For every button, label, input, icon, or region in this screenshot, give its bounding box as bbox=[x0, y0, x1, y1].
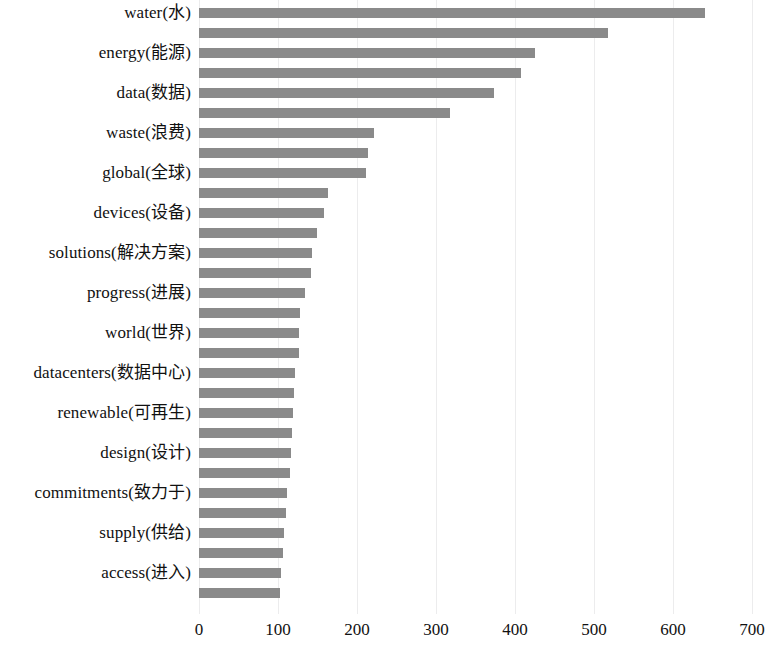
category-label: global(全球) bbox=[102, 163, 191, 183]
bar-row[interactable] bbox=[0, 263, 774, 283]
category-label: datacenters(数据中心) bbox=[34, 363, 191, 383]
bar[interactable] bbox=[199, 168, 366, 178]
bar[interactable] bbox=[199, 248, 312, 258]
category-label: access(进入) bbox=[101, 563, 191, 583]
category-label: design(设计) bbox=[100, 443, 191, 463]
bar[interactable] bbox=[199, 148, 368, 158]
bar[interactable] bbox=[199, 88, 494, 98]
bar[interactable] bbox=[199, 428, 292, 438]
category-label: energy(能源) bbox=[99, 43, 191, 63]
bar[interactable] bbox=[199, 288, 305, 298]
bar[interactable] bbox=[199, 548, 283, 558]
bar-row[interactable] bbox=[0, 23, 774, 43]
x-tick-label-700: 700 bbox=[739, 620, 765, 640]
bar-row[interactable] bbox=[0, 583, 774, 603]
category-label: world(世界) bbox=[105, 323, 191, 343]
bar-row[interactable] bbox=[0, 343, 774, 363]
bar-row[interactable] bbox=[0, 223, 774, 243]
category-label: renewable(可再生) bbox=[57, 403, 191, 423]
bar[interactable] bbox=[199, 488, 287, 498]
bar[interactable] bbox=[199, 588, 280, 598]
x-tick-label-200: 200 bbox=[344, 620, 370, 640]
bar-row[interactable] bbox=[0, 303, 774, 323]
x-tick-label-0: 0 bbox=[195, 620, 204, 640]
bar-row[interactable] bbox=[0, 3, 774, 23]
category-label: solutions(解决方案) bbox=[49, 243, 191, 263]
bar[interactable] bbox=[199, 348, 299, 358]
bar[interactable] bbox=[199, 408, 293, 418]
bar[interactable] bbox=[199, 328, 299, 338]
x-tick-label-100: 100 bbox=[265, 620, 291, 640]
bar[interactable] bbox=[199, 128, 374, 138]
bar[interactable] bbox=[199, 228, 317, 238]
bar-row[interactable] bbox=[0, 383, 774, 403]
bar-row[interactable] bbox=[0, 503, 774, 523]
bar[interactable] bbox=[199, 368, 295, 378]
category-label: progress(进展) bbox=[87, 283, 191, 303]
bar[interactable] bbox=[199, 208, 324, 218]
category-label: supply(供给) bbox=[99, 523, 191, 543]
bar[interactable] bbox=[199, 188, 328, 198]
bar-row[interactable] bbox=[0, 103, 774, 123]
bar[interactable] bbox=[199, 388, 294, 398]
bar[interactable] bbox=[199, 8, 705, 18]
category-label: water(水) bbox=[124, 3, 191, 23]
bar-chart: water(水)energy(能源)data(数据)waste(浪费)globa… bbox=[0, 0, 774, 653]
bar[interactable] bbox=[199, 28, 608, 38]
x-tick-label-500: 500 bbox=[581, 620, 607, 640]
bar-row[interactable] bbox=[0, 423, 774, 443]
category-label: commitments(致力于) bbox=[35, 483, 191, 503]
x-tick-label-300: 300 bbox=[423, 620, 449, 640]
bar[interactable] bbox=[199, 468, 290, 478]
bar-row[interactable] bbox=[0, 543, 774, 563]
x-tick-label-400: 400 bbox=[502, 620, 528, 640]
bar-row[interactable] bbox=[0, 183, 774, 203]
category-label: data(数据) bbox=[117, 83, 191, 103]
bar-row[interactable] bbox=[0, 143, 774, 163]
bar[interactable] bbox=[199, 508, 286, 518]
bar[interactable] bbox=[199, 528, 284, 538]
bar[interactable] bbox=[199, 568, 281, 578]
bar[interactable] bbox=[199, 308, 300, 318]
x-tick-label-600: 600 bbox=[660, 620, 686, 640]
bar[interactable] bbox=[199, 268, 311, 278]
plot-area: water(水)energy(能源)data(数据)waste(浪费)globa… bbox=[0, 0, 774, 653]
bar-row[interactable] bbox=[0, 463, 774, 483]
bar[interactable] bbox=[199, 448, 291, 458]
category-label: devices(设备) bbox=[94, 203, 191, 223]
bar[interactable] bbox=[199, 108, 450, 118]
bar[interactable] bbox=[199, 68, 521, 78]
bar-row[interactable] bbox=[0, 63, 774, 83]
category-label: waste(浪费) bbox=[106, 123, 191, 143]
bar[interactable] bbox=[199, 48, 535, 58]
